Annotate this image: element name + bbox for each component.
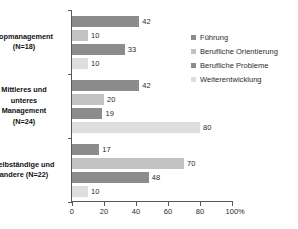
bar-value-label: 33	[128, 44, 137, 55]
bar-value-label: 19	[105, 108, 114, 119]
x-axis-tick-label: 20	[89, 207, 119, 216]
bar-value-label: 42	[142, 80, 151, 91]
bar	[72, 80, 139, 91]
legend-label: Berufliche Orientierung	[200, 47, 278, 56]
bar-value-label: 17	[102, 144, 111, 155]
bar-value-label: 20	[107, 94, 116, 105]
x-axis-tick	[168, 202, 169, 206]
bar-value-label: 10	[91, 30, 100, 41]
legend-item[interactable]: Berufliche Probleme	[191, 58, 278, 72]
legend-item[interactable]: Führung	[191, 30, 278, 44]
x-axis-tick	[72, 202, 73, 206]
legend-label: Berufliche Probleme	[200, 61, 268, 70]
bar	[72, 44, 125, 55]
x-axis-tick	[104, 202, 105, 206]
bar	[72, 108, 102, 119]
x-axis-tick	[232, 202, 233, 206]
bar-value-label: 10	[91, 58, 100, 69]
bar	[72, 186, 88, 197]
legend-swatch-icon	[191, 35, 196, 40]
legend: FührungBerufliche OrientierungBerufliche…	[191, 30, 278, 86]
category-label: Topmanagement(N=18)	[0, 32, 66, 53]
bar	[72, 58, 88, 69]
bar	[72, 172, 149, 183]
bar	[72, 16, 139, 27]
legend-item[interactable]: Berufliche Orientierung	[191, 44, 278, 58]
legend-item[interactable]: Weiterentwicklung	[191, 72, 278, 86]
x-axis-tick	[136, 202, 137, 206]
bar	[72, 30, 88, 41]
legend-swatch-icon	[191, 49, 196, 54]
bar	[72, 94, 104, 105]
x-axis-unit-label: %	[238, 207, 245, 216]
category-label: Mittleres undunteresManagement(N=24)	[0, 85, 66, 127]
bar-value-label: 42	[142, 16, 151, 27]
x-axis-tick-label: 60	[153, 207, 183, 216]
bar	[72, 158, 184, 169]
legend-label: Führung	[200, 33, 228, 42]
bar-value-label: 48	[152, 172, 161, 183]
bar-value-label: 10	[91, 186, 100, 197]
bar-value-label: 70	[187, 158, 196, 169]
category-label: Selbständige undandere (N=22)	[0, 160, 66, 181]
x-axis-tick	[200, 202, 201, 206]
bar-value-label: 80	[203, 122, 212, 133]
bar	[72, 144, 99, 155]
bar	[72, 122, 200, 133]
legend-swatch-icon	[191, 63, 196, 68]
legend-swatch-icon	[191, 77, 196, 82]
legend-label: Weiterentwicklung	[200, 75, 262, 84]
x-axis-tick-label: 80	[185, 207, 215, 216]
x-axis-tick-label: 0	[57, 207, 87, 216]
bar-chart: 020406080100 % 421033104220198017704810 …	[0, 0, 298, 229]
x-axis-tick-label: 40	[121, 207, 151, 216]
